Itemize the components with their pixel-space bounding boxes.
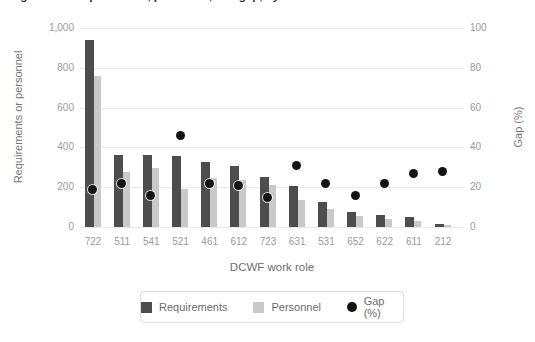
requirements-bar — [260, 177, 269, 227]
requirements-bar — [230, 166, 239, 227]
requirements-bar — [201, 162, 210, 227]
requirements-swatch-icon — [141, 302, 152, 313]
gap-dot-swatch-icon — [347, 302, 357, 312]
y-axis-tick-left: 200 — [32, 181, 74, 192]
gridline — [80, 68, 464, 69]
legend-label-gap: Gap (%) — [364, 295, 403, 319]
requirements-bar — [318, 202, 327, 227]
requirements-bar — [114, 155, 123, 227]
gridline — [80, 147, 464, 148]
personnel-swatch-icon — [253, 302, 264, 313]
gap-dot — [438, 167, 447, 176]
y-axis-title-right: Gap (%) — [512, 67, 524, 187]
requirements-bar — [85, 40, 94, 227]
legend-label-personnel: Personnel — [271, 301, 321, 313]
y-axis-tick-right: 20 — [470, 181, 510, 192]
y-axis-tick-left: 600 — [32, 102, 74, 113]
legend-item-requirements: Requirements — [141, 301, 227, 313]
gap-dot — [234, 181, 243, 190]
gap-dot — [88, 185, 97, 194]
legend: Requirements Personnel Gap (%) — [140, 291, 404, 323]
legend-label-requirements: Requirements — [159, 301, 227, 313]
y-axis-tick-right: 80 — [470, 62, 510, 73]
y-axis-tick-left: 400 — [32, 141, 74, 152]
gap-dot — [351, 191, 360, 200]
chart-figure: Figure 3.1. Requirements, personnel, and… — [0, 0, 535, 342]
legend-item-gap: Gap (%) — [347, 295, 403, 319]
gap-dot — [292, 161, 301, 170]
y-axis-tick-right: 40 — [470, 141, 510, 152]
y-axis-tick-left: 800 — [32, 62, 74, 73]
y-axis-tick-right: 100 — [470, 22, 510, 33]
y-axis-tick-right: 60 — [470, 102, 510, 113]
gridline — [80, 108, 464, 109]
gap-dot — [263, 193, 272, 202]
y-axis-tick-left: 0 — [32, 221, 74, 232]
gap-dot — [205, 179, 214, 188]
legend-item-personnel: Personnel — [253, 301, 321, 313]
gap-dot — [380, 179, 389, 188]
requirements-bar — [347, 212, 356, 227]
x-axis-title: DCWF work role — [182, 261, 362, 273]
y-axis-tick-right: 0 — [470, 221, 510, 232]
gap-dot — [146, 191, 155, 200]
gridline — [80, 28, 464, 29]
gridline — [80, 227, 464, 228]
gap-dot — [409, 169, 418, 178]
y-axis-title-left: Requirements or personnel — [12, 47, 24, 187]
requirements-bar — [289, 186, 298, 227]
requirements-bar — [435, 224, 444, 227]
gap-dot — [117, 179, 126, 188]
requirements-bar — [172, 156, 181, 227]
gap-dot — [176, 131, 185, 140]
requirements-bar — [405, 217, 414, 227]
y-axis-tick-left: 1,000 — [32, 22, 74, 33]
requirements-bar — [376, 215, 385, 227]
x-axis-tick: 212 — [426, 236, 460, 247]
